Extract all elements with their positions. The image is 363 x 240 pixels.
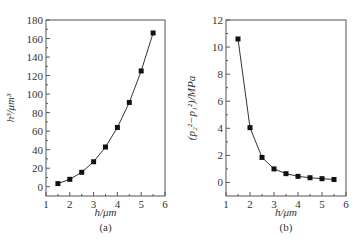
x-tick-label: 5 — [138, 198, 144, 210]
x-tick-label: 1 — [223, 198, 229, 210]
x-axis-title: h/μm — [94, 206, 116, 218]
data-point-marker — [67, 177, 72, 182]
x-axis-title: h/μm — [275, 206, 297, 218]
y-tick-label: 0 — [218, 176, 224, 188]
y-tick-label: 8 — [218, 68, 224, 80]
y-axis-title: (p₂²−p₁²)/MPa — [185, 75, 198, 140]
y-tick-label: 160 — [27, 33, 44, 45]
data-point-marker — [139, 68, 144, 73]
y-tick-label: 4 — [218, 122, 224, 134]
y-tick-label: 12 — [212, 14, 223, 26]
plot-frame — [226, 20, 346, 196]
x-tick-label: 6 — [162, 198, 168, 210]
data-point-marker — [79, 170, 84, 175]
x-tick-label: 2 — [67, 198, 73, 210]
data-point-marker — [296, 174, 301, 179]
x-tick-label: 5 — [319, 198, 325, 210]
data-point-marker — [332, 177, 337, 182]
data-point-marker — [272, 166, 277, 171]
y-tick-label: 80 — [32, 107, 44, 119]
y-axis-title: h³/μm³ — [4, 93, 16, 122]
y-tick-label: 6 — [218, 95, 224, 107]
series-line — [58, 33, 153, 184]
data-point-marker — [127, 100, 132, 105]
y-tick-label: 40 — [32, 144, 44, 156]
series-line — [238, 39, 334, 180]
data-point-marker — [91, 159, 96, 164]
figure: 123456020406080100120140160180h/μmh³/μm³… — [0, 0, 363, 240]
data-point-marker — [55, 181, 60, 186]
panel-label: (b) — [280, 221, 293, 234]
y-tick-label: 60 — [32, 125, 44, 137]
x-tick-label: 2 — [247, 198, 253, 210]
x-tick-label: 1 — [43, 198, 49, 210]
y-tick-label: 10 — [212, 41, 224, 53]
data-point-marker — [236, 36, 241, 41]
plot-frame — [46, 20, 165, 196]
data-point-marker — [103, 144, 108, 149]
data-point-marker — [284, 171, 289, 176]
y-tick-label: 120 — [27, 70, 44, 82]
y-tick-label: 20 — [32, 162, 44, 174]
y-tick-label: 100 — [27, 88, 44, 100]
x-tick-label: 6 — [343, 198, 349, 210]
chart-panel-a: 123456020406080100120140160180h/μmh³/μm³… — [4, 14, 168, 234]
y-tick-label: 2 — [218, 149, 224, 161]
y-tick-label: 180 — [27, 14, 44, 26]
y-tick-label: 0 — [38, 181, 44, 193]
data-point-marker — [248, 125, 253, 130]
chart-panel-b: 123456024681012h/μm(p₂²−p₁²)/MPa(b) — [185, 14, 349, 234]
data-point-marker — [320, 176, 325, 181]
data-point-marker — [308, 175, 313, 180]
y-tick-label: 140 — [27, 51, 44, 63]
data-point-marker — [260, 155, 265, 160]
data-point-marker — [115, 125, 120, 130]
data-point-marker — [151, 30, 156, 35]
panel-label: (a) — [99, 221, 112, 234]
